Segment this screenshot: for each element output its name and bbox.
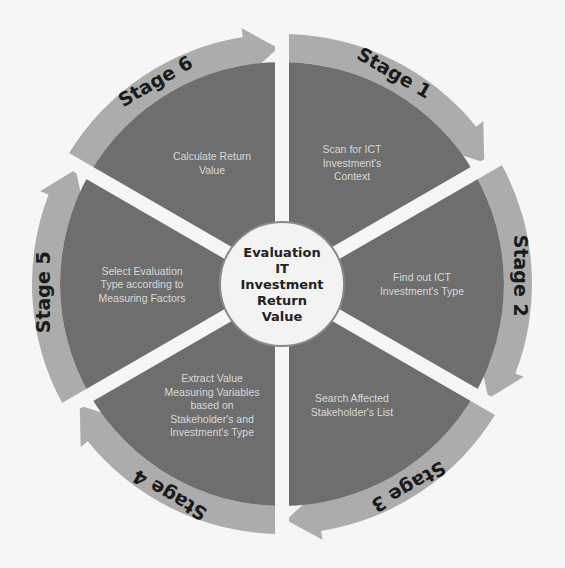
- center-hub: EvaluationITInvestmentReturnValue: [220, 222, 344, 346]
- stage-3-description: Search AffectedStakeholder's List: [311, 392, 394, 418]
- stage-5-description: Select EvaluationType according toMeasur…: [99, 265, 186, 304]
- stage-2-label: Stage 2: [510, 235, 532, 317]
- stage-5-label: Stage 5: [32, 251, 54, 333]
- cycle-diagram: Stage 1Stage 2Stage 3Stage 4Stage 5Stage…: [0, 0, 565, 568]
